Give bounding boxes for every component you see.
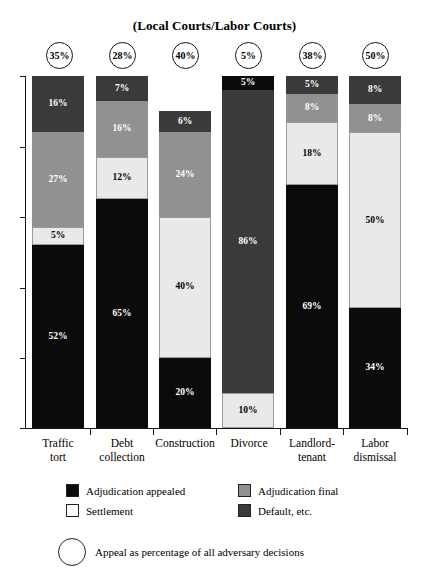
segment-label: 5% [241,78,255,88]
segment-default[interactable]: 6% [159,111,211,132]
segment-label: 16% [113,124,132,134]
legend-swatch-icon [238,504,251,517]
legend-swatch-icon [238,484,251,497]
legend-item-settlement[interactable]: Settlement [66,504,133,517]
segment-adjudication-final[interactable]: 16% [96,101,148,157]
segment-label: 18% [303,149,322,159]
segment-label: 10% [239,406,258,416]
segment-adjudication-appealed[interactable]: 52% [32,245,84,428]
x-axis-tick [280,429,281,435]
segment-adjudication-appealed[interactable]: 65% [96,199,148,428]
segment-label: 16% [49,99,68,109]
legend-swatch-icon [66,504,79,517]
legend-label: Adjudication appealed [86,485,185,497]
segment-label: 24% [176,170,195,180]
segment-settlement[interactable]: 50% [349,132,401,308]
y-axis-tick [20,217,26,218]
segment-default[interactable]: 86% [222,90,274,393]
y-axis-tick [20,428,26,429]
segment-label: 65% [113,309,132,319]
legend-label: Default, etc. [258,505,312,517]
segment-label: 34% [366,363,385,373]
x-label-labor-dismissal: Labor dismissal [332,436,418,464]
plot-area: 52% 5% 27% 16% 65% 12% 16% 7% 20% 40% 24… [0,0,429,430]
segment-label: 6% [178,117,192,127]
legend-note-appeal-circle: Appeal as percentage of all adversary de… [58,538,304,566]
segment-default[interactable]: 16% [32,76,84,132]
segment-label: 52% [49,332,68,342]
legend-item-adjudication-appealed[interactable]: Adjudication appealed [66,484,185,497]
segment-label: 20% [176,388,195,398]
x-axis-tick [90,429,91,435]
segment-adjudication-appealed[interactable]: 20% [159,358,211,428]
segment-adjudication-final[interactable]: 8% [286,94,338,122]
segment-label: 50% [366,216,385,226]
circle-icon [58,538,86,566]
segment-label: 7% [115,84,129,94]
segment-adjudication-final[interactable]: 24% [159,132,211,216]
segment-settlement[interactable]: 18% [286,122,338,185]
segment-settlement[interactable]: 40% [159,217,211,358]
segment-label: 8% [368,85,382,95]
legend-item-adjudication-final[interactable]: Adjudication final [238,484,338,497]
segment-label: 86% [239,237,258,247]
segment-default[interactable]: 5% [286,76,338,94]
legend-label: Adjudication final [258,485,338,497]
segment-adjudication-appealed[interactable]: 5% [222,76,274,90]
legend-swatch-icon [66,484,79,497]
x-axis-tick [153,429,154,435]
segment-settlement[interactable]: 5% [32,227,84,245]
x-axis-tick [343,429,344,435]
segment-label: 40% [176,282,195,292]
x-axis-tick [216,429,217,435]
segment-settlement[interactable]: 10% [222,393,274,428]
legend-note-label: Appeal as percentage of all adversary de… [95,546,304,558]
y-axis-tick [20,358,26,359]
x-label-line2: dismissal [332,450,418,464]
segment-settlement[interactable]: 12% [96,157,148,199]
segment-adjudication-final[interactable]: 27% [32,132,84,227]
segment-default[interactable]: 7% [96,76,148,101]
segment-default[interactable]: 8% [349,76,401,104]
segment-label: 5% [305,80,319,90]
segment-adjudication-appealed[interactable]: 34% [349,308,401,428]
legend-item-default[interactable]: Default, etc. [238,504,312,517]
y-axis-tick [20,147,26,148]
legend-label: Settlement [86,505,133,517]
y-axis-line [25,76,26,429]
x-label-line2: collection [79,450,165,464]
y-axis-tick [20,76,26,77]
segment-label: 8% [305,103,319,113]
segment-adjudication-final[interactable]: 8% [349,104,401,132]
x-label-line1: Labor [332,436,418,450]
segment-label: 27% [49,175,68,185]
x-axis-tick [407,429,408,435]
segment-label: 8% [368,114,382,124]
segment-label: 69% [303,302,322,312]
segment-label: 12% [113,173,132,183]
segment-adjudication-appealed[interactable]: 69% [286,185,338,428]
segment-label: 5% [51,231,65,241]
y-axis-tick [20,288,26,289]
